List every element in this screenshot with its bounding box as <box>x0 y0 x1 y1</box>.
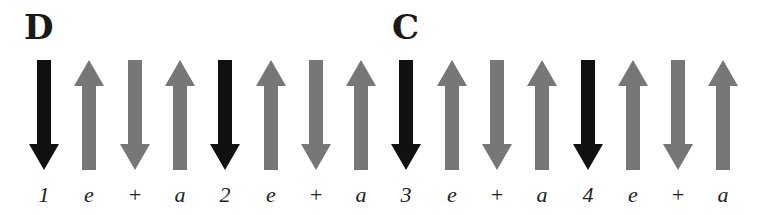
beat-count-label: a <box>703 182 743 208</box>
arrow-up-icon <box>72 58 106 172</box>
beat-count-label: 2 <box>205 182 245 208</box>
beat-count-label: + <box>477 182 517 208</box>
beat-count-label: e <box>432 182 472 208</box>
arrow-up-icon <box>435 58 469 172</box>
arrow-down-icon <box>208 58 242 172</box>
arrow-down-icon <box>480 58 514 172</box>
arrow-down-icon <box>571 58 605 172</box>
arrow-down-icon <box>389 58 423 172</box>
beat-count-label: + <box>296 182 336 208</box>
beat-count-label: 4 <box>568 182 608 208</box>
arrow-down-icon <box>661 58 695 172</box>
beat-count-label: + <box>115 182 155 208</box>
beat-count-label: e <box>251 182 291 208</box>
arrow-up-icon <box>344 58 378 172</box>
beat-count-label: a <box>522 182 562 208</box>
arrow-up-icon <box>163 58 197 172</box>
arrow-up-icon <box>616 58 650 172</box>
arrow-up-icon <box>706 58 740 172</box>
arrow-up-icon <box>254 58 288 172</box>
beat-count-label: e <box>613 182 653 208</box>
beat-count-label: e <box>69 182 109 208</box>
arrow-down-icon <box>27 58 61 172</box>
beat-count-label: + <box>658 182 698 208</box>
beat-count-label: a <box>341 182 381 208</box>
chord-label: C <box>392 10 419 44</box>
beat-count-label: a <box>160 182 200 208</box>
arrow-up-icon <box>525 58 559 172</box>
chord-label: D <box>24 10 53 44</box>
arrow-down-icon <box>118 58 152 172</box>
beat-count-label: 1 <box>24 182 64 208</box>
arrow-down-icon <box>299 58 333 172</box>
beat-count-label: 3 <box>386 182 426 208</box>
